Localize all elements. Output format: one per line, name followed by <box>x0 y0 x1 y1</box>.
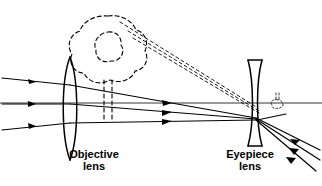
eyepiece-lens-label: Eyepiece lens <box>190 148 310 172</box>
tree-inner-canopy <box>95 32 123 62</box>
image-tree-dashed <box>271 92 283 109</box>
telescope-ray-diagram: Objective lens Eyepiece lens <box>0 0 322 186</box>
converging-ray-arrowheads <box>162 100 172 125</box>
incoming-ray-arrowheads <box>28 79 36 129</box>
tree-trunk-dashed <box>104 80 112 122</box>
objective-lens-label: Objective lens <box>34 148 154 172</box>
dashed-projection-rays <box>120 22 259 113</box>
tree-outer-canopy <box>69 16 147 83</box>
objective-lens <box>63 57 77 160</box>
object-tree-dashed <box>69 16 147 83</box>
